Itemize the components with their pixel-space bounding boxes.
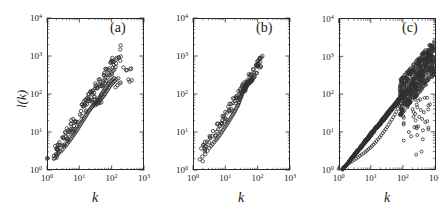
plot-canvas-a: 100101102103100101102103104 — [0, 0, 146, 219]
data-point — [415, 153, 418, 156]
x-tick-label: 101 — [219, 172, 231, 184]
data-point — [414, 119, 417, 122]
data-point — [211, 129, 214, 132]
x-tick-label: 100 — [333, 173, 345, 183]
y-tick-label: 104 — [322, 14, 334, 24]
data-point — [395, 110, 398, 113]
plot-canvas-b: 100101102103100101102103104 — [146, 0, 292, 219]
data-point — [407, 131, 410, 134]
data-point — [420, 150, 423, 153]
x-tick-label: 102 — [106, 172, 118, 184]
data-point — [119, 44, 122, 47]
y-tick-label: 101 — [30, 126, 42, 138]
y-tick-label: 102 — [322, 89, 334, 99]
x-tick-label: 100 — [41, 172, 53, 184]
x-tick-label: 101 — [73, 172, 85, 184]
data-point — [122, 66, 125, 69]
data-point — [410, 135, 413, 138]
data-point — [412, 115, 415, 118]
y-tick-label: 101 — [322, 127, 334, 137]
panel-a: (a) l(k) k 100101102103100101102103104 — [0, 0, 146, 219]
y-tick-label: 104 — [30, 12, 42, 24]
y-tick-label: 104 — [176, 12, 188, 24]
data-point — [416, 134, 419, 137]
data-point — [119, 59, 122, 62]
data-point — [422, 111, 425, 114]
y-tick-label: 102 — [176, 88, 188, 100]
x-tick-label: 101 — [365, 173, 377, 183]
x-tick-label: 100 — [187, 172, 199, 184]
data-point — [421, 117, 424, 120]
figure-container: (a) l(k) k 100101102103100101102103104 (… — [0, 0, 439, 219]
data-point — [200, 147, 203, 150]
y-tick-label: 103 — [176, 50, 188, 62]
data-point — [419, 108, 422, 111]
data-point — [427, 108, 430, 111]
y-tick-label: 101 — [176, 126, 188, 138]
x-tick-label: 103 — [429, 173, 439, 183]
data-point — [421, 138, 424, 141]
data-point — [421, 129, 424, 132]
data-point — [119, 48, 122, 51]
data-point — [402, 139, 405, 142]
data-point — [198, 158, 201, 161]
data-point — [201, 155, 204, 158]
y-tick-label: 102 — [30, 88, 42, 100]
x-tick-label: 102 — [397, 173, 409, 183]
plot-canvas-c: 100101102103100101102103104 — [292, 0, 438, 219]
y-tick-label: 103 — [30, 50, 42, 62]
y-tick-label: 103 — [322, 52, 334, 62]
panel-c: (c) k 100101102103100101102103104 — [292, 0, 439, 219]
x-tick-label: 102 — [252, 172, 264, 184]
data-point — [418, 115, 421, 118]
panel-b: (b) k 100101102103100101102103104 — [146, 0, 292, 219]
data-point — [79, 109, 82, 112]
